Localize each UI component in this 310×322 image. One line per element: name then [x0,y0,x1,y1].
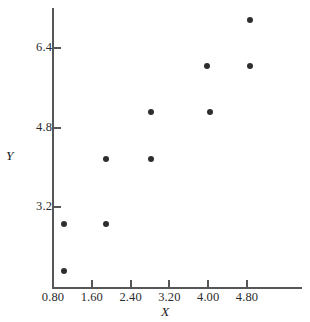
y-axis-line [52,8,54,289]
scatter-plot-figure: 3.24.86.4 0.801.602.403.204.004.80 Y X [0,0,310,322]
data-point [61,268,67,274]
x-axis-line [52,287,302,289]
x-axis-title: X [0,304,310,320]
y-axis-tick [54,206,61,208]
data-point [148,109,154,115]
data-point [247,63,253,69]
y-axis-tick [54,127,61,129]
x-axis-tick [130,280,132,288]
data-point [61,221,67,227]
x-axis-tick [91,280,93,288]
y-axis-tick-label: 3.2 [2,200,52,213]
y-axis-tick-label: 6.4 [2,41,52,54]
x-axis-tick [246,280,248,288]
data-point [103,221,109,227]
x-axis-tick [52,280,54,288]
data-point [247,17,253,23]
data-point [204,63,210,69]
data-point [148,156,154,162]
x-axis-tick-label: 4.80 [224,291,270,304]
data-point [103,156,109,162]
x-axis-tick [168,280,170,288]
y-axis-tick [54,47,61,49]
x-axis-tick [207,280,209,288]
y-axis-title: Y [6,148,14,164]
data-point [207,109,213,115]
y-axis-tick-label: 4.8 [2,121,52,134]
